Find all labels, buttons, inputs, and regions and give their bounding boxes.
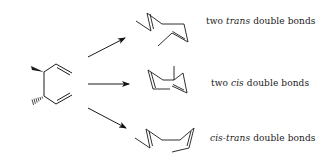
label-cis-cis: two cis double bonds bbox=[211, 78, 309, 88]
arrow-bottom bbox=[88, 108, 126, 128]
product-cis-trans-molecule bbox=[135, 128, 194, 152]
label-suffix: double bonds bbox=[250, 16, 315, 26]
product-trans-trans-molecule bbox=[136, 13, 188, 46]
label-prefix: two bbox=[206, 16, 226, 26]
reactant-molecule bbox=[44, 64, 72, 104]
wedge-bond-icon bbox=[31, 66, 44, 72]
hashed-bond-icon bbox=[32, 97, 43, 106]
label-italic: trans bbox=[226, 16, 250, 26]
arrow-top bbox=[88, 38, 125, 57]
label-trans-trans: two trans double bonds bbox=[206, 16, 316, 26]
label-suffix: double bonds bbox=[250, 133, 315, 143]
product-cis-cis-molecule bbox=[148, 66, 187, 93]
label-italic: cis-trans bbox=[210, 133, 250, 143]
label-prefix: two bbox=[211, 78, 231, 88]
label-suffix: double bonds bbox=[244, 78, 309, 88]
label-cis-trans: cis-trans double bonds bbox=[210, 133, 316, 143]
label-italic: cis bbox=[231, 78, 244, 88]
